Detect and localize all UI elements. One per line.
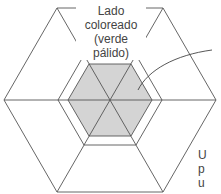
side-label: U p u xyxy=(198,148,221,190)
label-line-3: (verde pálido) xyxy=(76,32,146,60)
side-label-line-1: U xyxy=(198,148,221,162)
side-label-line-2: p xyxy=(198,162,221,176)
side-label-line-3: u xyxy=(198,176,221,190)
hexagon-diagram: Lado coloreado (verde pálido) U p u xyxy=(0,0,221,194)
label-line-2: coloreado xyxy=(76,18,146,32)
label-line-1: Lado xyxy=(76,4,146,18)
colored-side-label: Lado coloreado (verde pálido) xyxy=(76,4,146,60)
